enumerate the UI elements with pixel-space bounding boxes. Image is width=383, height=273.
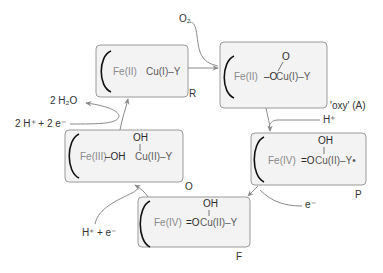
state-o-label: O bbox=[185, 181, 193, 192]
arrow-e-minus-input bbox=[260, 190, 302, 206]
arrow-h-plus-input bbox=[269, 120, 320, 128]
state-r-label: R bbox=[189, 88, 196, 99]
state-o-fe: Fe(III) bbox=[80, 151, 107, 162]
state-f-cu-oh: OH bbox=[203, 198, 218, 209]
o2-input-label: O₂ bbox=[179, 13, 191, 24]
state-o-cu-oh: OH bbox=[133, 132, 148, 143]
state-f-cu: Cu(II)–Y bbox=[200, 217, 238, 228]
state-a-label: 'oxy' (A) bbox=[330, 100, 366, 111]
h-plus-e-input-label: H⁺ + e⁻ bbox=[82, 227, 116, 238]
arrow-o-to-r bbox=[120, 99, 128, 130]
state-f-fe-ligand: =O bbox=[186, 217, 200, 228]
state-r: Fe(II) Cu(I)–Y R bbox=[96, 45, 196, 99]
state-a-top-o: O bbox=[282, 51, 290, 62]
state-a-fe: Fe(II) bbox=[234, 71, 258, 82]
catalytic-cycle-diagram: Fe(II) Cu(I)–Y R Fe(II) –O O Cu(I)–Y 'ox… bbox=[0, 0, 383, 273]
two-h2o-output-label: 2 H₂O bbox=[50, 95, 77, 106]
state-o: Fe(III) –OH OH Cu(II)–Y O bbox=[65, 130, 193, 192]
state-o-fe-ligand: –OH bbox=[105, 151, 126, 162]
h-plus-input-label: H⁺ bbox=[323, 114, 335, 125]
arrow-f-to-o bbox=[135, 185, 148, 197]
state-p-cu-oh: OH bbox=[318, 135, 333, 146]
state-o-cu: Cu(II)–Y bbox=[135, 151, 173, 162]
arrow-o2-input bbox=[190, 22, 218, 66]
two-h-two-e-input-label: 2 H⁺ + 2 e⁻ bbox=[15, 118, 66, 129]
state-r-fe: Fe(II) bbox=[113, 66, 137, 77]
arrow-h2o-output bbox=[70, 103, 119, 124]
state-p-label: P bbox=[355, 189, 362, 200]
state-p-fe: Fe(IV) bbox=[268, 155, 296, 166]
state-p-cu: Cu(II)–Y• bbox=[315, 155, 356, 166]
arrow-h-e-input bbox=[95, 186, 139, 224]
arrow-p-to-f bbox=[248, 186, 258, 196]
state-f-label: F bbox=[236, 251, 242, 262]
state-r-cu: Cu(I)–Y bbox=[146, 66, 181, 77]
state-f-fe: Fe(IV) bbox=[154, 217, 182, 228]
e-minus-input-label: e⁻ bbox=[305, 199, 316, 210]
state-a: Fe(II) –O O Cu(I)–Y 'oxy' (A) bbox=[220, 42, 366, 111]
state-f: Fe(IV) =O OH Cu(II)–Y F bbox=[138, 197, 250, 262]
state-p: Fe(IV) =O OH Cu(II)–Y• P bbox=[251, 133, 366, 200]
state-a-cu: Cu(I)–Y bbox=[276, 71, 311, 82]
state-p-fe-ligand: =O bbox=[301, 155, 315, 166]
